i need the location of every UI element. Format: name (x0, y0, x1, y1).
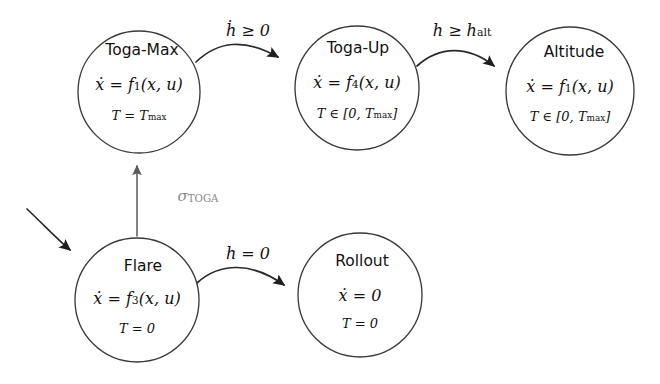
edge-initial-to-flare (27, 209, 70, 250)
edge-initial-to-flare-path (27, 209, 70, 250)
edge-label-hdot-geq-zero: ḣ ≥ 0 (226, 20, 270, 40)
node-altitude[interactable]: Altitude ẋ = f1(x, u) T ∈ [0, Tmax] (506, 27, 634, 155)
node-flare[interactable]: Flare ẋ = f3(x, u) T = 0 (75, 238, 199, 362)
state-machine-diagram: ḣ ≥ 0 h ≥ halt σTOGA h = 0 Toga-Max ẋ = … (0, 0, 660, 384)
edge-flare-to-toga-max: σTOGA (137, 166, 219, 236)
edge-toga-up-to-altitude: h ≥ halt (417, 21, 494, 67)
edge-flare-to-rollout-path (197, 267, 284, 285)
node-toga-max[interactable]: Toga-Max ẋ = f1(x, u) T = Tmax (78, 31, 200, 153)
node-flare-label: Flare (124, 257, 162, 275)
node-toga-max-label: Toga-Max (104, 41, 178, 59)
node-rollout[interactable]: Rollout ẋ = 0 T = 0 (298, 233, 422, 357)
edge-label-h-geq-halt: h ≥ halt (433, 21, 492, 40)
node-rollout-constraint: T = 0 (342, 316, 378, 331)
node-toga-up[interactable]: Toga-Up ẋ = f4(x, u) T ∈ [0, Tmax] (295, 26, 419, 150)
edge-label-sigma-toga: σTOGA (178, 187, 220, 205)
node-toga-up-label: Toga-Up (326, 39, 389, 57)
edge-toga-max-to-toga-up: ḣ ≥ 0 (196, 20, 278, 63)
node-rollout-dynamics: ẋ = 0 (339, 286, 382, 305)
edge-toga-up-to-altitude-path (417, 51, 494, 66)
edge-label-h-eq-zero: h = 0 (226, 244, 270, 263)
edge-toga-max-to-toga-up-path (196, 44, 278, 62)
diagram-canvas: ḣ ≥ 0 h ≥ halt σTOGA h = 0 Toga-Max ẋ = … (0, 0, 660, 384)
edge-flare-to-rollout: h = 0 (197, 244, 284, 286)
node-flare-constraint: T = 0 (119, 321, 155, 336)
node-rollout-label: Rollout (335, 252, 389, 270)
node-altitude-label: Altitude (544, 43, 605, 61)
